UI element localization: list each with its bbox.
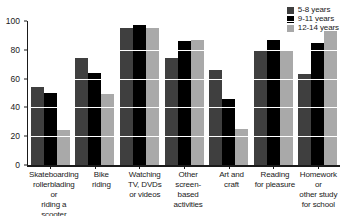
legend-label: 5-8 years (298, 6, 330, 14)
x-tick-mark (273, 165, 274, 169)
x-axis-label: Homework orother studyfor school (297, 170, 340, 216)
bar-group (206, 21, 251, 165)
x-axis-label-line: activities (167, 200, 208, 210)
x-axis-label-line: Art and (211, 170, 252, 180)
y-tick-label: 20 (11, 131, 20, 141)
x-axis-label-line: Reading (254, 170, 295, 180)
bar (101, 94, 114, 165)
y-tick-label: 60 (11, 74, 20, 84)
legend-item: 5-8 years (287, 6, 339, 14)
bar (280, 51, 293, 165)
legend-swatch-icon (287, 7, 294, 14)
x-axis-label-line: Other (167, 170, 208, 180)
bar (165, 58, 178, 165)
bar (57, 130, 70, 165)
bar (88, 73, 101, 165)
plot-wrapper: 020406080100 Skateboardingrollerblading … (0, 0, 345, 216)
bar-group (73, 21, 118, 165)
x-tick-mark (95, 165, 96, 169)
bar-group (295, 21, 340, 165)
x-axis-label-line: riding (81, 180, 122, 190)
bar (146, 28, 159, 165)
y-tick-label: 80 (11, 45, 20, 55)
x-axis-label-line: for pleasure (254, 180, 295, 190)
x-axis-label-line: or videos (124, 190, 165, 200)
x-axis-label-line: riding a scooter (29, 200, 79, 216)
x-tick-mark (50, 165, 51, 169)
bar (75, 58, 88, 165)
x-axis-label: WatchingTV, DVDsor videos (123, 170, 166, 216)
bar (191, 40, 204, 165)
y-tick-label: 0 (15, 160, 20, 170)
x-axis-label: Readingfor pleasure (253, 170, 296, 216)
x-axis-label-line: Skateboarding (29, 170, 79, 180)
x-axis-label-line: for school (298, 200, 339, 210)
y-tick-label: 40 (11, 102, 20, 112)
bar-group (162, 21, 207, 165)
x-tick-mark (184, 165, 185, 169)
x-axis-label-line: Watching (124, 170, 165, 180)
x-axis-label-line: TV, DVDs (124, 180, 165, 190)
plot-area (28, 21, 340, 165)
bar-chart: 020406080100 Skateboardingrollerblading … (0, 0, 345, 216)
bar-group (251, 21, 296, 165)
x-axis-labels: Skateboardingrollerblading orriding a sc… (28, 170, 340, 216)
bar (178, 41, 191, 165)
bar (44, 93, 57, 165)
bar (235, 129, 248, 165)
bar (31, 87, 44, 165)
bar (311, 43, 324, 165)
bar (267, 40, 280, 165)
x-axis-label-line: rollerblading or (29, 180, 79, 200)
x-axis-label: Otherscreen-basedactivities (166, 170, 209, 216)
bar (209, 70, 222, 165)
bar (120, 28, 133, 165)
y-tick-label: 100 (6, 16, 20, 26)
x-tick-mark (318, 165, 319, 169)
x-axis-label-line: screen-based (167, 180, 208, 200)
bar (133, 25, 146, 165)
x-axis-label-line: other study (298, 190, 339, 200)
bar (254, 51, 267, 165)
x-tick-mark (139, 165, 140, 169)
x-axis-label-line: Bike (81, 170, 122, 180)
bar (298, 74, 311, 165)
x-axis-label-line: craft (211, 180, 252, 190)
x-tick-mark (229, 165, 230, 169)
x-axis-label: Bikeriding (80, 170, 123, 216)
bar (222, 99, 235, 165)
bar-group (117, 21, 162, 165)
x-axis-label-line: Homework or (298, 170, 339, 190)
bar-groups (28, 21, 340, 165)
x-axis-label: Art andcraft (210, 170, 253, 216)
bar-group (28, 21, 73, 165)
y-axis: 020406080100 (0, 21, 24, 165)
bar (324, 31, 337, 165)
x-axis-label: Skateboardingrollerblading orriding a sc… (28, 170, 80, 216)
